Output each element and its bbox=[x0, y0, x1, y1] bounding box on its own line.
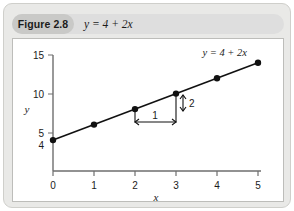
data-line-series bbox=[53, 63, 258, 140]
y-axis-ticks bbox=[48, 55, 53, 133]
figure-number-label: Figure 2.8 bbox=[12, 14, 74, 34]
y-tick-label-15: 15 bbox=[33, 50, 45, 61]
data-point bbox=[50, 137, 56, 143]
line-chart: 15 10 5 4 0 1 2 3 4 5 x y bbox=[13, 39, 285, 203]
y-tick-label-5: 5 bbox=[38, 128, 44, 139]
x-tick-label-5: 5 bbox=[255, 180, 261, 191]
y-tick-label-10: 10 bbox=[33, 89, 45, 100]
x-tick-label-1: 1 bbox=[91, 180, 97, 191]
x-tick-label-3: 3 bbox=[173, 180, 179, 191]
x-tick-label-4: 4 bbox=[214, 180, 220, 191]
x-tick-label-2: 2 bbox=[132, 180, 138, 191]
y-intercept-label-4: 4 bbox=[38, 140, 44, 151]
rise-annotation bbox=[180, 95, 186, 111]
data-point bbox=[255, 60, 261, 66]
plot-area: 15 10 5 4 0 1 2 3 4 5 x y bbox=[12, 38, 284, 202]
y-axis-title: y bbox=[24, 103, 30, 115]
figure-title: y = 4 + 2x bbox=[84, 14, 133, 34]
x-tick-label-0: 0 bbox=[50, 180, 56, 191]
x-axis-ticks bbox=[53, 171, 258, 176]
x-axis-title: x bbox=[153, 191, 159, 203]
data-point bbox=[214, 75, 220, 81]
data-point bbox=[91, 121, 97, 127]
line-equation-label: y = 4 + 2x bbox=[202, 47, 248, 58]
figure-card: Figure 2.8 y = 4 + 2x 15 10 5 4 bbox=[3, 3, 291, 208]
figure-header: Figure 2.8 y = 4 + 2x bbox=[12, 14, 284, 34]
figure-number-badge: Figure 2.8 bbox=[12, 14, 74, 34]
rise-label: 2 bbox=[189, 98, 195, 109]
run-label: 1 bbox=[152, 110, 158, 121]
